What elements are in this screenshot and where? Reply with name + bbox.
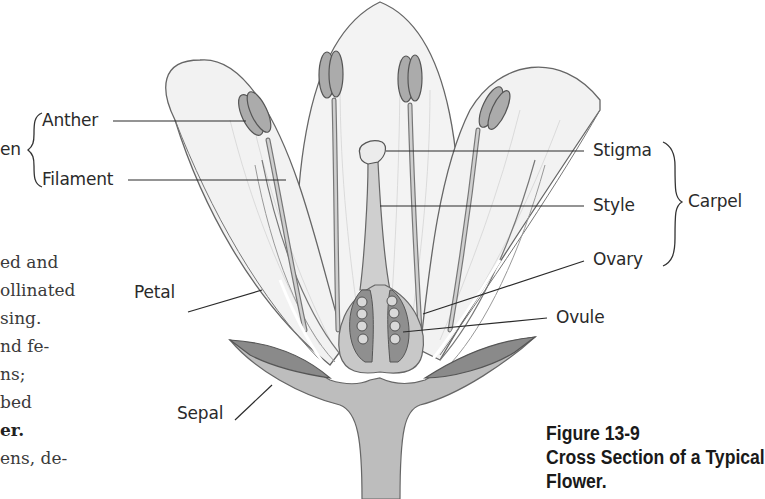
stamen-brace (28, 113, 42, 187)
carpel-brace (663, 142, 682, 266)
figure-title-line-2: Flower. (546, 471, 607, 491)
label-stigma: Stigma (593, 142, 652, 159)
body-text-line-4: nd fe- (0, 338, 49, 355)
label-style: Style (593, 197, 635, 214)
label-anther: Anther (42, 112, 98, 129)
label-petal: Petal (134, 284, 175, 301)
figure-title-line-1: Cross Section of a Typical (546, 447, 765, 467)
body-text-line-5: ns; (0, 366, 25, 383)
body-text-line-3: sing. (0, 310, 41, 327)
label-ovule: Ovule (556, 309, 604, 326)
body-text-line-7: er. (0, 422, 24, 439)
body-text-line-2: ollinated (0, 282, 75, 299)
label-stamen: en (0, 141, 21, 158)
body-text-line-6: bed (0, 394, 32, 411)
label-sepal: Sepal (177, 405, 223, 422)
label-filament: Filament (42, 171, 113, 188)
label-carpel: Carpel (688, 193, 742, 210)
body-text-line-8: ens, de- (0, 450, 67, 467)
figure-number: Figure 13-9 (546, 423, 640, 443)
body-text-line-1: ed and (0, 254, 58, 271)
label-ovary: Ovary (593, 251, 643, 268)
